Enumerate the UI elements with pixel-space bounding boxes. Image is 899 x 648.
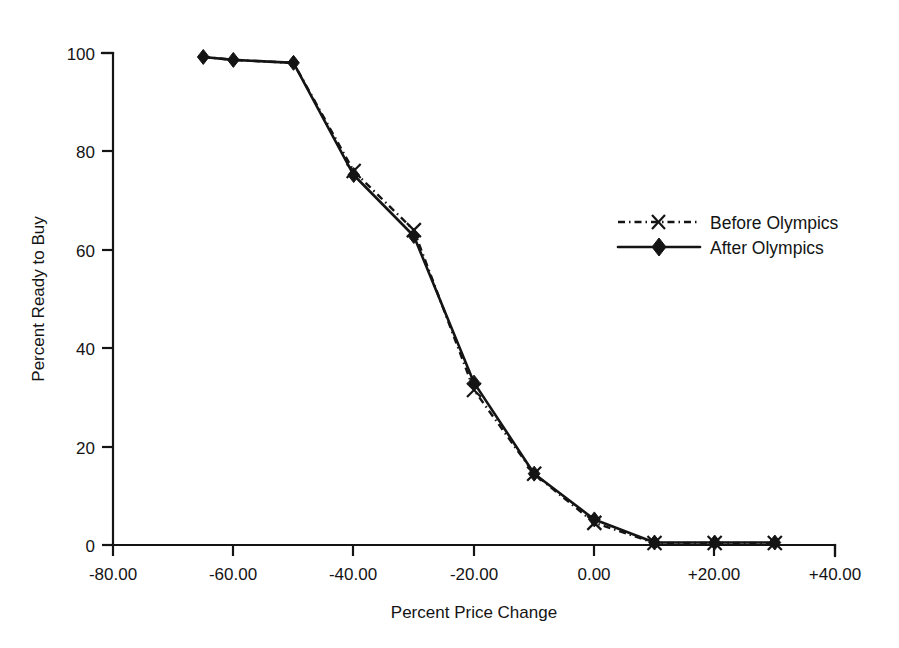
y-tick-label-40: 40 bbox=[76, 340, 95, 359]
y-tick-label-80: 80 bbox=[76, 143, 95, 162]
data-point bbox=[227, 52, 239, 67]
chart-figure: 100 80 60 40 20 0 -80.00 -60.00 -40.00 -… bbox=[0, 0, 899, 648]
legend-label-after: After Olympics bbox=[710, 238, 824, 258]
y-axis-title: Percent Ready to Buy bbox=[29, 216, 48, 382]
y-tick-label-20: 20 bbox=[76, 439, 95, 458]
y-tick-label-0: 0 bbox=[86, 537, 95, 556]
legend-marker-diamond-icon bbox=[652, 238, 666, 256]
x-tick-label-p20: +20.00 bbox=[688, 565, 740, 584]
x-axis-title: Percent Price Change bbox=[391, 603, 557, 622]
x-tick-marks bbox=[113, 545, 835, 556]
series-after-olympics bbox=[197, 49, 780, 550]
legend-entry-after[interactable]: After Olympics bbox=[618, 238, 824, 258]
y-tick-labels: 100 80 60 40 20 0 bbox=[67, 45, 95, 556]
marker-diamond-icon bbox=[197, 49, 209, 64]
x-tick-label-p40: +40.00 bbox=[809, 565, 861, 584]
data-point bbox=[197, 49, 209, 64]
y-tick-label-100: 100 bbox=[67, 45, 95, 64]
marker-diamond-icon bbox=[227, 52, 239, 67]
x-tick-label-n40: -40.00 bbox=[329, 565, 377, 584]
legend-label-before: Before Olympics bbox=[710, 213, 839, 233]
x-tick-label-n60: -60.00 bbox=[209, 565, 257, 584]
y-tick-label-60: 60 bbox=[76, 242, 95, 261]
x-tick-label-n80: -80.00 bbox=[89, 565, 137, 584]
x-tick-label-0: 0.00 bbox=[577, 565, 610, 584]
chart-canvas: 100 80 60 40 20 0 -80.00 -60.00 -40.00 -… bbox=[0, 0, 899, 648]
series-line bbox=[203, 57, 775, 543]
x-tick-label-n20: -20.00 bbox=[450, 565, 498, 584]
y-tick-marks bbox=[102, 53, 113, 545]
legend-entry-before[interactable]: Before Olympics bbox=[618, 213, 839, 233]
series-line bbox=[203, 57, 775, 543]
legend: Before Olympics After Olympics bbox=[618, 213, 839, 258]
series-before-olympics bbox=[203, 57, 782, 550]
axis-group bbox=[102, 53, 835, 556]
data-series-layer bbox=[197, 49, 781, 550]
x-tick-labels: -80.00 -60.00 -40.00 -20.00 0.00 +20.00 … bbox=[89, 565, 861, 584]
